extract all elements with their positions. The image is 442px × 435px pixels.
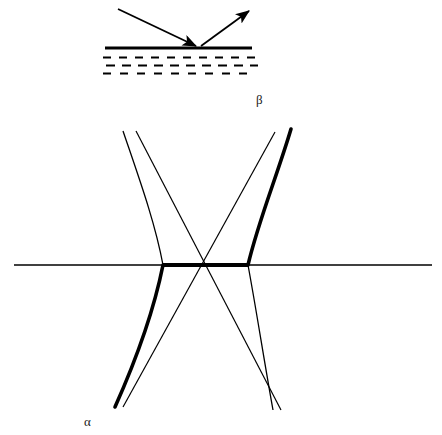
panel-label-beta: β (256, 93, 263, 106)
figure-root: β α (0, 0, 442, 435)
panel-label-alpha: α (84, 415, 91, 428)
figure-canvas (0, 0, 442, 435)
